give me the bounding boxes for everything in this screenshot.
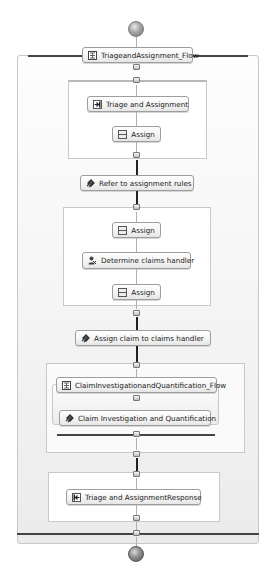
- node-label: Assign: [131, 226, 155, 235]
- outer-flow-bottom-connector[interactable]: [133, 530, 140, 536]
- connector-line: [136, 369, 137, 377]
- invoke-assign-claim-to-claims-handler[interactable]: Assign claim to claims handler: [75, 330, 211, 346]
- scope-1-top-connector[interactable]: [133, 77, 140, 83]
- reply-icon: [72, 493, 81, 502]
- flow-top-bar-right: [192, 55, 248, 57]
- node-label: Refer to assignment rules: [99, 179, 192, 188]
- invoke-icon: [65, 414, 74, 423]
- node-label: Claim Investigation and Quantification: [78, 414, 216, 423]
- connector-line: [136, 212, 137, 222]
- connector-line: [136, 37, 137, 47]
- receive-icon: [93, 100, 102, 109]
- connector-line: [136, 269, 137, 284]
- flow-top-bar-left: [28, 55, 84, 57]
- arrow: [136, 458, 138, 471]
- scope-3-top-connector[interactable]: [133, 362, 140, 368]
- arrow: [136, 317, 138, 330]
- start-node[interactable]: [128, 21, 144, 37]
- node-label: Triage and Assignment: [106, 100, 188, 109]
- connector-line: [136, 85, 137, 96]
- assign-2[interactable]: Assign: [112, 222, 161, 238]
- connector-line: [136, 438, 137, 450]
- connector-line: [136, 537, 137, 546]
- collapse-connector[interactable]: [133, 395, 140, 401]
- scope-1: [68, 80, 207, 159]
- receive-triage-and-assignment[interactable]: Triage and Assignment: [87, 96, 189, 112]
- node-label: Assign: [131, 288, 155, 297]
- inner-flow-bottom-connector[interactable]: [133, 431, 140, 437]
- scope-3-bottom-connector[interactable]: [133, 451, 140, 457]
- invoke-icon: [81, 334, 90, 343]
- flow-icon: [88, 51, 97, 60]
- connector-line: [136, 505, 137, 515]
- assign-icon: [118, 226, 127, 235]
- node-label: Determine claims handler: [101, 256, 194, 265]
- scope-1-bottom-connector[interactable]: [133, 152, 140, 158]
- human-task-determine-claims-handler[interactable]: Determine claims handler: [82, 252, 191, 269]
- node-label: Assign: [131, 130, 155, 139]
- node-label: Triage and AssignmentResponse: [85, 493, 202, 502]
- assign-icon: [118, 130, 127, 139]
- invoke-claim-investigation-and-quantification[interactable]: Claim Investigation and Quantification: [59, 410, 211, 426]
- inner-flow-label: ClaimInvestigationandQuantification_Flow: [75, 381, 226, 390]
- connector-line: [136, 478, 137, 489]
- scope-2-top-connector[interactable]: [133, 204, 140, 210]
- connector-line: [136, 112, 137, 126]
- invoke-icon: [86, 179, 95, 188]
- scope-4-top-connector[interactable]: [133, 471, 140, 477]
- arrow: [136, 160, 138, 175]
- arrow: [136, 346, 138, 363]
- outer-flow-title[interactable]: TriageandAssignment_Flow: [82, 47, 193, 63]
- connector-line: [136, 238, 137, 252]
- scope-4-bottom-connector[interactable]: [133, 515, 140, 521]
- human-task-icon: [88, 256, 97, 265]
- end-node[interactable]: [128, 546, 144, 562]
- flow-icon: [62, 381, 71, 390]
- invoke-refer-to-assignment-rules[interactable]: Refer to assignment rules: [80, 175, 194, 191]
- assign-1[interactable]: Assign: [112, 126, 161, 142]
- node-label: Assign claim to claims handler: [94, 334, 204, 343]
- outer-flow-label: TriageandAssignment_Flow: [101, 51, 199, 60]
- collapse-connector[interactable]: [133, 64, 140, 70]
- connector-line: [136, 300, 137, 309]
- inner-flow-title[interactable]: ClaimInvestigationandQuantification_Flow: [56, 377, 217, 393]
- scope-2-bottom-connector[interactable]: [133, 310, 140, 316]
- assign-3[interactable]: Assign: [112, 284, 161, 300]
- reply-triage-and-assignment-response[interactable]: Triage and AssignmentResponse: [66, 489, 201, 505]
- assign-icon: [118, 288, 127, 297]
